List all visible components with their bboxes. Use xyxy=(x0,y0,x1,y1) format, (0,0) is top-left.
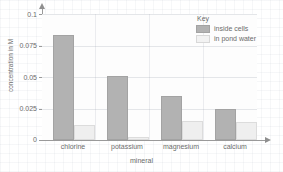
legend-swatch-inside-cells xyxy=(196,25,210,33)
y-tick-label: 0.025 xyxy=(19,105,37,112)
bar-pond-water-chlorine xyxy=(74,125,95,140)
legend-item-inside-cells: inside cells xyxy=(196,25,256,33)
legend-swatch-in-pond-water xyxy=(196,35,210,43)
x-axis-title: mineral xyxy=(0,157,283,165)
bar-chart: 0.1 0.075 0.05 0.025 0 concentration in … xyxy=(0,0,283,172)
legend-label-in-pond-water: in pond water xyxy=(214,35,256,43)
legend-item-in-pond-water: in pond water xyxy=(196,35,256,43)
bar-group-potassium xyxy=(107,76,149,140)
bar-pond-water-magnesium xyxy=(182,121,203,140)
y-tick-label: 0.05 xyxy=(23,74,37,81)
bar-group-magnesium xyxy=(161,96,203,140)
x-tick-label-calcium: calcium xyxy=(205,143,265,151)
x-axis-arrow-icon xyxy=(265,137,271,143)
bar-group-chlorine xyxy=(53,35,95,140)
bar-group-calcium xyxy=(215,109,257,141)
bar-inside-cells-potassium xyxy=(107,76,128,140)
legend: Key inside cells in pond water xyxy=(196,15,256,45)
x-axis-line xyxy=(42,140,267,141)
bar-pond-water-calcium xyxy=(236,122,257,140)
bar-inside-cells-chlorine xyxy=(53,35,74,140)
y-tick-label: 0.1 xyxy=(27,11,37,18)
x-tick-label-chlorine: chlorine xyxy=(43,143,103,151)
bar-pond-water-potassium xyxy=(128,137,149,140)
y-tick-label: 0 xyxy=(33,136,37,143)
y-axis-title: concentration in M xyxy=(7,18,14,114)
y-tick-label: 0.075 xyxy=(19,42,37,49)
legend-label-inside-cells: inside cells xyxy=(214,25,248,33)
y-axis-arrow-icon xyxy=(39,3,45,9)
legend-title: Key xyxy=(197,15,256,23)
x-tick-label-magnesium: magnesium xyxy=(151,143,211,151)
x-tick-label-potassium: potassium xyxy=(97,143,157,151)
bar-inside-cells-calcium xyxy=(215,109,236,141)
bar-inside-cells-magnesium xyxy=(161,96,182,140)
